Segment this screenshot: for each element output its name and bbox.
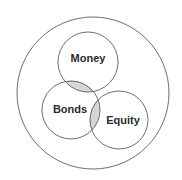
universe-circle <box>17 17 169 169</box>
set-label-equity: Equity <box>106 114 140 126</box>
set-label-money: Money <box>71 52 107 64</box>
set-label-bonds: Bonds <box>53 103 87 115</box>
venn-diagram: Money Bonds Equity <box>0 0 182 180</box>
venn-diagram-canvas: Money Bonds Equity <box>0 0 182 180</box>
